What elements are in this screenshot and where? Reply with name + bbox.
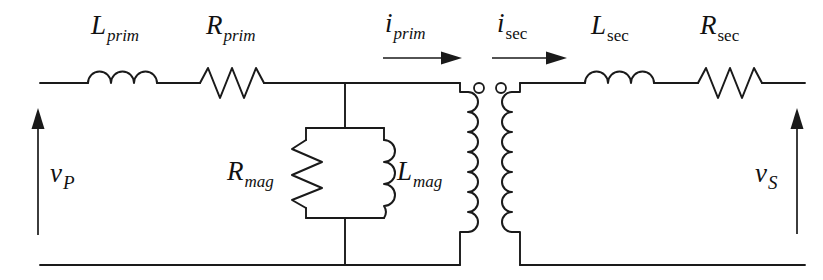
label-l-mag-subscript: mag — [413, 172, 442, 191]
label-r-sec-symbol: R — [700, 10, 717, 40]
wire-secondary-winding-bottom — [512, 232, 520, 265]
label-v-s-symbol: v — [755, 158, 767, 188]
label-i-sec: isec — [497, 10, 526, 37]
inductor-l-sec — [585, 72, 654, 84]
voltage-arrow-primary — [32, 108, 45, 235]
label-v-s: vS — [755, 160, 776, 187]
label-v-p-subscript: P — [63, 172, 75, 193]
polarity-dot-secondary — [496, 83, 506, 93]
label-v-p: vP — [50, 160, 74, 187]
current-arrow-primary — [383, 52, 462, 65]
label-i-prim: iprim — [385, 10, 425, 37]
label-l-prim: Lprim — [91, 12, 138, 39]
label-l-mag: Lmag — [397, 158, 441, 185]
label-l-sec-subscript: sec — [607, 26, 629, 45]
inductor-l-mag — [384, 140, 395, 218]
wire-primary-winding-bottom — [460, 232, 468, 265]
wire-secondary-winding-top — [512, 83, 520, 92]
label-r-mag: Rmag — [227, 158, 273, 185]
current-arrow-secondary — [492, 52, 567, 65]
voltage-arrow-secondary — [791, 108, 804, 234]
label-r-prim-subscript: prim — [224, 26, 256, 45]
label-r-prim: Rprim — [206, 12, 255, 39]
resistor-r-mag — [292, 140, 322, 208]
label-i-sec-symbol: i — [497, 8, 505, 38]
circuit-diagram-canvas: Lprim Rprim iprim isec Lsec Rsec Rmag Lm… — [0, 0, 823, 280]
label-l-sec: Lsec — [591, 12, 628, 39]
label-l-prim-symbol: L — [91, 10, 106, 40]
label-r-mag-subscript: mag — [245, 172, 274, 191]
label-i-prim-symbol: i — [385, 8, 393, 38]
polarity-dot-primary — [474, 83, 484, 93]
wire-primary-winding-top — [460, 83, 468, 92]
label-r-sec-subscript: sec — [718, 26, 740, 45]
winding-secondary — [502, 92, 512, 232]
label-i-prim-subscript: prim — [394, 24, 426, 43]
label-r-prim-symbol: R — [206, 10, 223, 40]
label-l-sec-symbol: L — [591, 10, 606, 40]
label-l-mag-symbol: L — [397, 156, 412, 186]
label-v-p-symbol: v — [50, 158, 62, 188]
inductor-l-prim — [88, 72, 157, 84]
label-r-sec: Rsec — [700, 12, 738, 39]
label-i-sec-subscript: sec — [506, 24, 528, 43]
label-r-mag-symbol: R — [227, 156, 244, 186]
winding-primary — [468, 92, 478, 232]
label-l-prim-subscript: prim — [107, 26, 139, 45]
resistor-r-sec — [698, 68, 762, 98]
resistor-r-prim — [200, 68, 264, 98]
label-v-s-subscript: S — [768, 172, 778, 193]
